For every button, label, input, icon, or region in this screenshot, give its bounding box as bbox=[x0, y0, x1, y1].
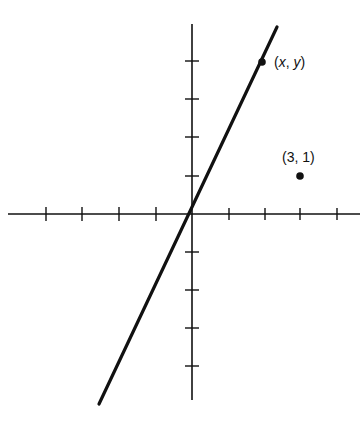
point-x-y bbox=[258, 58, 266, 66]
coordinate-plane: (x, y) (3, 1) bbox=[0, 0, 360, 421]
line-through-origin bbox=[99, 27, 277, 404]
point-3-1-label: (3, 1) bbox=[282, 149, 315, 165]
point-x-y-label: (x, y) bbox=[274, 54, 305, 70]
point-3-1 bbox=[296, 172, 304, 180]
